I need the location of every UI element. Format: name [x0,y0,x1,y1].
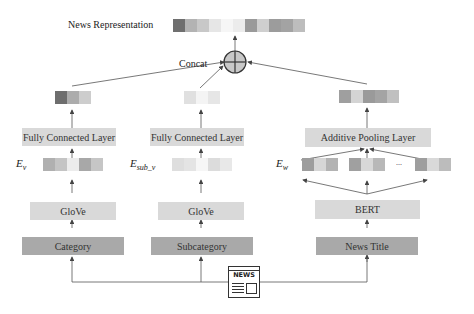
vector-cell [293,19,305,32]
additive-pooling-layer: Additive Pooling Layer [305,128,431,147]
vector-cell [387,90,399,103]
vector-cell [221,19,233,32]
vector-cell [55,91,67,104]
category-fc-layer: Fully Connected Layer [22,128,116,146]
category-glove-encoder: GloVe [30,202,116,220]
vector-cell [196,91,208,104]
news-title-input: News Title [316,237,418,255]
title-output-vector [339,90,399,103]
category-embedding-label: Ev [16,157,26,172]
title-embedding-label: Ew [276,157,288,172]
news-icon-text: NEWS [229,271,259,280]
token-vector-1 [302,158,338,171]
vector-cell [220,158,232,171]
concat-label: Concat [179,58,207,69]
vector-cell [302,158,314,171]
vector-cell [185,19,197,32]
vector-cell [197,19,209,32]
vector-cell [257,19,269,32]
subcategory-input: Subcategory [151,237,253,255]
news-representation-label: News Representation [68,19,153,30]
vector-cell [184,91,196,104]
news-article-icon: NEWS [228,266,260,298]
vector-cell [91,158,103,171]
vector-cell [349,158,361,171]
ellipsis: ... [396,158,402,167]
category-embedding-vector [43,158,103,171]
vector-cell [427,158,439,171]
vector-cell [208,91,220,104]
category-input: Category [22,237,124,255]
subcategory-embedding-vector [172,158,232,171]
vector-cell [172,158,184,171]
subcategory-output-vector [184,91,220,104]
vector-cell [209,19,221,32]
vector-cell [55,158,67,171]
vector-cell [269,19,281,32]
subcategory-glove-encoder: GloVe [158,202,244,220]
category-output-vector [55,91,91,104]
vector-cell [79,158,91,171]
vector-cell [208,158,220,171]
vector-cell [43,158,55,171]
vector-cell [173,19,185,32]
vector-cell [339,90,351,103]
vector-cell [67,158,79,171]
vector-cell [233,19,245,32]
news-encoder-diagram: News Representation Concat Fully Connect… [0,0,474,314]
vector-cell [67,91,79,104]
vector-cell [351,90,363,103]
vector-cell [373,158,385,171]
vector-cell [79,91,91,104]
subcategory-fc-layer: Fully Connected Layer [150,128,244,146]
token-vector-3 [415,158,451,171]
vector-cell [245,19,257,32]
vector-cell [196,158,208,171]
concat-operator-icon [224,51,246,73]
bert-encoder: BERT [315,200,420,219]
vector-cell [314,158,326,171]
news-representation-vector [173,19,305,32]
vector-cell [439,158,451,171]
vector-cell [361,158,373,171]
vector-cell [184,158,196,171]
vector-cell [375,90,387,103]
vector-cell [415,158,427,171]
vector-cell [363,90,375,103]
subcategory-embedding-label: Esub_v [130,157,155,172]
vector-cell [326,158,338,171]
vector-cell [281,19,293,32]
token-vector-2 [349,158,385,171]
